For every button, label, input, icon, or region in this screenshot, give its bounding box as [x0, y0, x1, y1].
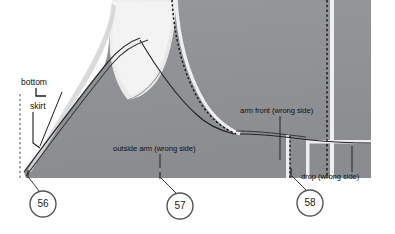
seam-strip-arm-front: [286, 134, 290, 178]
label-skirt: skirt: [30, 102, 46, 111]
callout-label-57: 57: [170, 200, 190, 211]
diagram-canvas: bottom skirt arm front (wrong side) outs…: [0, 0, 395, 234]
diagram-artwork: [0, 0, 395, 234]
label-bottom: bottom: [21, 78, 47, 87]
seam-strip-drop-right: [330, 0, 334, 178]
background-right-band: [371, 0, 395, 234]
callout-label-56: 56: [33, 198, 53, 209]
callout-label-58: 58: [300, 197, 320, 208]
label-outside-arm: outside arm (wrong side): [113, 145, 195, 153]
label-drop: drop (wrong side): [301, 173, 359, 181]
label-arm-front: arm front (wrong side): [240, 107, 313, 115]
background-bottom-band: [0, 178, 395, 234]
